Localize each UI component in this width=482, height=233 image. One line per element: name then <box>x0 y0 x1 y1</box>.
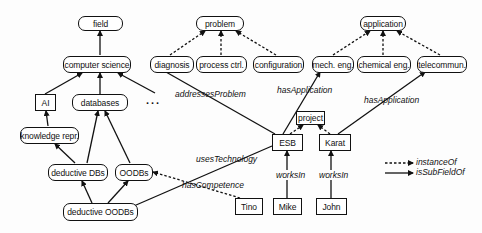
node-project: project <box>296 111 325 125</box>
node-esb: ESB <box>272 134 303 151</box>
node-telecommun: telecommun. <box>417 56 467 73</box>
node-application: application <box>360 16 406 31</box>
edge-dots-cs <box>118 73 155 93</box>
edge-karat-project <box>318 125 330 134</box>
node-oodbs: OODBs <box>115 164 153 181</box>
node-tino: Tino <box>235 198 263 215</box>
label-works-in-1: worksIn <box>275 170 306 180</box>
label-addresses-problem: addressesProblem <box>175 89 246 99</box>
node-configuration: configuration <box>253 56 304 73</box>
node-problem: problem <box>196 16 244 31</box>
node-mech-eng: mech. eng. <box>312 56 354 73</box>
node-databases: databases <box>72 94 128 111</box>
label-uses-technology: usesTechnology <box>196 154 257 164</box>
label-has-competence: hasCompetence <box>182 180 244 190</box>
ellipsis: ... <box>146 94 161 106</box>
edge-mech-app <box>333 31 370 55</box>
node-knowledge-repr: knowledge repr. <box>20 127 79 144</box>
label-works-in-2: worksIn <box>318 170 349 180</box>
edge-esb-project <box>290 125 303 134</box>
legend-instance-of: instanceOf <box>416 157 457 167</box>
node-karat: Karat <box>319 134 351 151</box>
legend-is-sub-field-of: isSubFieldOf <box>416 167 465 177</box>
node-mike: Mike <box>273 198 302 215</box>
node-chemical-eng: chemical eng. <box>357 56 411 73</box>
edge-conf-problem <box>236 31 276 55</box>
edge-ddb-db <box>87 111 98 163</box>
edge-kr-ai <box>46 111 48 126</box>
node-john: John <box>316 198 347 215</box>
edge-doodb-ddb <box>82 181 92 203</box>
label-has-application-1: hasApplication <box>277 85 332 95</box>
edge-oodb-db <box>105 111 130 163</box>
edge-addresses-problem <box>166 72 275 134</box>
node-deductive-dbs: deductive DBs <box>48 164 108 181</box>
node-deductive-oodbs: deductive OODBs <box>63 203 138 221</box>
edge-doodb-oodb <box>108 181 128 203</box>
knowledge-graph-diagram: field computer science AI databases ... … <box>0 0 482 233</box>
edge-ai-cs <box>45 73 82 94</box>
node-ai: AI <box>35 94 56 111</box>
node-field: field <box>78 16 123 31</box>
node-computer-science: computer science <box>63 56 131 73</box>
node-process-ctrl: process ctrl. <box>196 56 247 73</box>
node-diagnosis: diagnosis <box>150 56 194 73</box>
edge-diag-problem <box>170 31 205 55</box>
label-has-application-2: hasApplication <box>364 95 419 105</box>
edge-ddb-kr <box>55 144 75 163</box>
edge-tele-app <box>397 31 440 55</box>
